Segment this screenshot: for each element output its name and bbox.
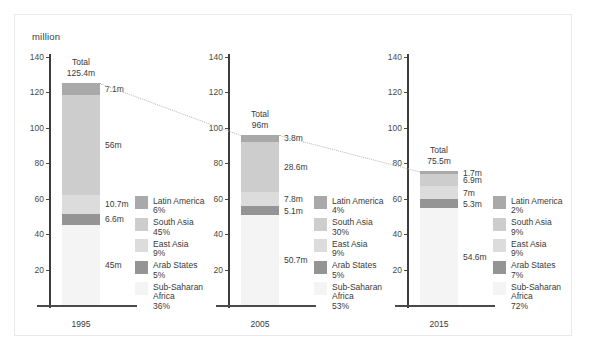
legend-item-south-asia[interactable]: South Asia 45% (135, 218, 194, 238)
legend-item-south-asia[interactable]: South Asia 9% (493, 218, 552, 238)
legend-label: Latin America 6% (153, 196, 205, 216)
y-tick-mark (225, 57, 228, 58)
legend-swatch-icon (314, 282, 327, 295)
y-tick-mark (404, 128, 407, 129)
x-axis-2005 (216, 305, 316, 307)
legend-label: South Asia 9% (511, 218, 552, 238)
bar-total-annotation: Total125.4m (46, 57, 116, 79)
y-tick-label: 140 (22, 52, 44, 62)
y-tick-mark (46, 128, 49, 129)
segment-value-label: 54.6m (463, 252, 487, 262)
y-tick-mark (225, 163, 228, 164)
legend-swatch-icon (314, 239, 327, 252)
segment-value-label: 5.3m (463, 199, 482, 209)
segment-value-label: 7m (463, 188, 475, 198)
bar-segment-sub-saharan-africa[interactable] (420, 208, 458, 305)
y-tick-label: 120 (22, 87, 44, 97)
legend-swatch-icon (135, 282, 148, 295)
bar-segment-east-asia[interactable] (420, 186, 458, 198)
legend-swatch-icon (135, 261, 148, 274)
bar-segment-south-asia[interactable] (241, 142, 279, 193)
legend-swatch-icon (135, 239, 148, 252)
legend-item-east-asia[interactable]: East Asia 9% (493, 239, 546, 259)
y-tick-mark (404, 199, 407, 200)
legend-swatch-icon (493, 261, 506, 274)
x-axis-label-2005: 2005 (230, 319, 290, 329)
segment-value-label: 6.6m (105, 214, 124, 224)
y-tick-mark (46, 92, 49, 93)
bar-segment-arab-states[interactable] (420, 199, 458, 208)
legend-item-latin-america[interactable]: Latin America 2% (493, 196, 563, 216)
y-axis-2005 (228, 54, 230, 308)
y-tick-label: 40 (201, 229, 223, 239)
legend-item-arab-states[interactable]: Arab States 5% (135, 261, 197, 281)
legend-item-east-asia[interactable]: East Asia 9% (314, 239, 367, 259)
y-tick-label: 40 (22, 229, 44, 239)
segment-value-label: 45m (105, 260, 122, 270)
legend-swatch-icon (493, 218, 506, 231)
legend-label: Arab States 5% (153, 261, 197, 281)
total-value: 96m (225, 120, 295, 131)
x-axis-1995 (37, 305, 137, 307)
legend-item-sub-saharan-africa[interactable]: Sub-Saharan Africa 53% (314, 282, 382, 311)
legend-label: Sub-Saharan Africa 72% (511, 282, 561, 311)
y-tick-label: 100 (22, 123, 44, 133)
legend-item-east-asia[interactable]: East Asia 9% (135, 239, 188, 259)
bar-total-annotation: Total96m (225, 109, 295, 131)
stacked-bar-2005[interactable] (241, 135, 279, 305)
y-tick-mark (404, 270, 407, 271)
legend-item-sub-saharan-africa[interactable]: Sub-Saharan Africa 36% (135, 282, 203, 311)
legend-item-latin-america[interactable]: Latin America 4% (314, 196, 384, 216)
legend-swatch-icon (135, 218, 148, 231)
legend-swatch-icon (314, 218, 327, 231)
legend-label: Arab States 7% (511, 261, 555, 281)
x-axis-label-1995: 1995 (51, 319, 111, 329)
y-tick-mark (404, 234, 407, 235)
y-tick-mark (46, 270, 49, 271)
bar-segment-south-asia[interactable] (62, 95, 100, 194)
total-caption: Total (46, 57, 116, 68)
legend-swatch-icon (493, 239, 506, 252)
y-tick-mark (225, 92, 228, 93)
bar-segment-sub-saharan-africa[interactable] (241, 215, 279, 305)
y-tick-mark (225, 234, 228, 235)
bar-segment-latin-america[interactable] (241, 135, 279, 142)
bar-total-annotation: Total75.5m (404, 145, 474, 167)
legend-label: Sub-Saharan Africa 36% (153, 282, 203, 311)
segment-value-label: 50.7m (284, 255, 308, 265)
y-tick-label: 40 (380, 229, 402, 239)
y-tick-label: 140 (201, 52, 223, 62)
bar-segment-arab-states[interactable] (241, 206, 279, 215)
stacked-bar-chart: million 140120100806040207.1m56m10.7m6.6… (0, 0, 598, 361)
legend-item-south-asia[interactable]: South Asia 30% (314, 218, 373, 238)
bar-segment-east-asia[interactable] (241, 192, 279, 206)
stacked-bar-2015[interactable] (420, 171, 458, 305)
bar-segment-south-asia[interactable] (420, 174, 458, 186)
y-tick-label: 20 (201, 265, 223, 275)
bar-segment-sub-saharan-africa[interactable] (62, 225, 100, 305)
y-tick-mark (225, 199, 228, 200)
y-tick-mark (46, 163, 49, 164)
legend-label: East Asia 9% (153, 239, 188, 259)
legend-swatch-icon (493, 196, 506, 209)
segment-value-label: 7.8m (284, 194, 303, 204)
legend-label: Latin America 2% (511, 196, 563, 216)
legend-item-latin-america[interactable]: Latin America 6% (135, 196, 205, 216)
bar-segment-arab-states[interactable] (62, 214, 100, 226)
stacked-bar-1995[interactable] (62, 83, 100, 305)
legend-label: East Asia 9% (511, 239, 546, 259)
legend-item-arab-states[interactable]: Arab States 5% (314, 261, 376, 281)
segment-value-label: 5.1m (284, 206, 303, 216)
y-tick-label: 140 (380, 52, 402, 62)
y-tick-mark (46, 234, 49, 235)
legend-item-arab-states[interactable]: Arab States 7% (493, 261, 555, 281)
y-tick-label: 80 (201, 158, 223, 168)
bar-segment-latin-america[interactable] (62, 83, 100, 96)
y-axis-unit-label: million (32, 31, 60, 42)
legend-label: South Asia 30% (332, 218, 373, 238)
legend-item-sub-saharan-africa[interactable]: Sub-Saharan Africa 72% (493, 282, 561, 311)
segment-value-label: 6.9m (463, 175, 482, 185)
total-caption: Total (225, 109, 295, 120)
x-axis-2015 (395, 305, 495, 307)
bar-segment-east-asia[interactable] (62, 195, 100, 214)
